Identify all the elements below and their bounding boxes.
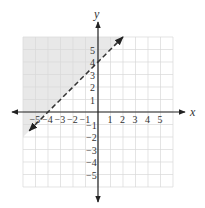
y-tick-label: −1	[86, 120, 97, 131]
y-tick-label: −2	[86, 132, 97, 143]
x-tick-label: −2	[67, 114, 78, 125]
x-tick-label: 4	[145, 114, 150, 125]
y-tick-label: 4	[90, 57, 95, 68]
y-tick-label: 2	[90, 82, 95, 93]
x-tick-label: −4	[42, 114, 53, 125]
x-tick-label: 3	[133, 114, 138, 125]
y-tick-label: −3	[86, 145, 97, 156]
y-axis-label: y	[93, 7, 100, 21]
y-tick-label: 5	[90, 45, 95, 56]
x-tick-label: −5	[30, 114, 41, 125]
x-tick-label: −3	[55, 114, 66, 125]
x-tick-label: 1	[108, 114, 113, 125]
y-tick-label: −5	[86, 170, 97, 181]
coordinate-plane: −5−4−3−2−11234554321−1−2−3−4−5 x y	[0, 0, 205, 208]
x-tick-label: 2	[120, 114, 125, 125]
x-axis-label: x	[189, 105, 196, 119]
y-tick-label: −4	[86, 157, 97, 168]
y-tick-label: 1	[90, 95, 95, 106]
y-tick-label: 3	[90, 70, 95, 81]
x-tick-label: 5	[158, 114, 163, 125]
